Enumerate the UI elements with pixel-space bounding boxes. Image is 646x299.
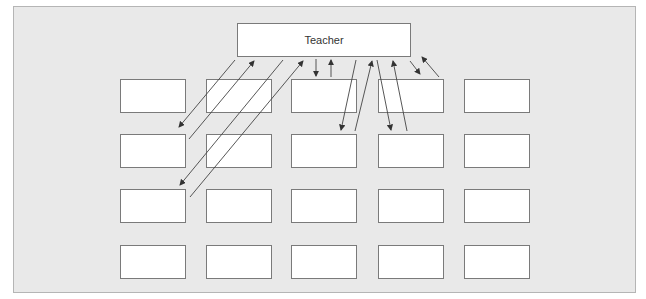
interaction-arrows (0, 0, 646, 299)
